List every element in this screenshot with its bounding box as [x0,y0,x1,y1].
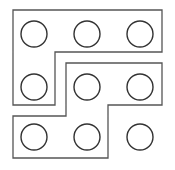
circle-r1-c3 [127,21,153,47]
circle-r2-c3 [127,74,153,100]
circle-grid [21,21,153,150]
circle-r3-c1 [21,124,47,150]
circle-r1-c2 [74,21,100,47]
circle-r3-c3 [127,124,153,150]
circle-r2-c2 [74,74,100,100]
circle-grid-diagram [0,0,175,170]
circle-r2-c1 [21,74,47,100]
circle-r3-c2 [74,124,100,150]
circle-r1-c1 [21,21,47,47]
